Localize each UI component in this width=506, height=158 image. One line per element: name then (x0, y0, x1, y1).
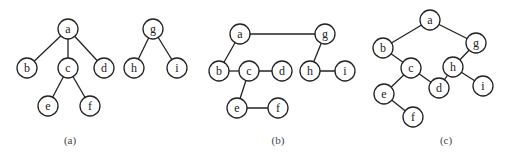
node-label: g (473, 36, 479, 50)
node-c-f: f (403, 107, 423, 127)
node-c-c: c (401, 58, 421, 78)
node-c-g: g (466, 33, 486, 53)
node-b-b: b (209, 61, 229, 81)
node-label: d (436, 81, 442, 95)
node-a-d: d (94, 58, 114, 78)
node-label: b (380, 41, 386, 55)
node-b-c: c (239, 61, 259, 81)
node-c-d: d (429, 78, 449, 98)
node-label: b (24, 61, 30, 75)
node-label: h (131, 61, 137, 75)
node-label: e (234, 101, 239, 115)
node-label: g (150, 22, 156, 36)
node-a-a: a (58, 19, 78, 39)
node-label: f (276, 101, 280, 115)
node-c-b: b (373, 38, 393, 58)
node-label: d (279, 64, 285, 78)
node-a-c: c (58, 58, 78, 78)
panel-caption-b: (b) (272, 134, 285, 147)
node-b-e: e (227, 98, 247, 118)
node-label: h (307, 64, 313, 78)
captions-layer: (a)(b)(c) (64, 134, 453, 147)
node-label: e (381, 87, 386, 101)
node-label: c (246, 64, 251, 78)
node-label: a (427, 13, 433, 27)
panel-caption-a: (a) (64, 134, 77, 147)
node-c-e: e (374, 84, 394, 104)
node-b-i: i (335, 61, 355, 81)
tree-forest-diagram: abcdefghiagbcdhiefabgchdief (a)(b)(c) (0, 0, 506, 158)
node-label: c (408, 61, 413, 75)
node-label: c (65, 61, 70, 75)
node-c-a: a (420, 10, 440, 30)
node-label: b (216, 64, 222, 78)
node-label: f (88, 99, 92, 113)
node-label: a (65, 22, 71, 36)
node-a-e: e (38, 96, 58, 116)
node-a-f: f (80, 96, 100, 116)
node-c-h: h (443, 57, 463, 77)
node-b-g: g (315, 24, 335, 44)
node-label: a (237, 27, 243, 41)
nodes-layer: abcdefghiagbcdhiefabgchdief (17, 10, 493, 127)
node-label: f (411, 110, 415, 124)
node-label: g (322, 27, 328, 41)
node-c-i: i (473, 76, 493, 96)
node-b-d: d (272, 61, 292, 81)
panel-caption-c: (c) (440, 134, 453, 147)
node-b-f: f (268, 98, 288, 118)
node-label: h (450, 60, 456, 74)
node-a-g: g (143, 19, 163, 39)
node-a-i: i (167, 58, 187, 78)
node-label: d (101, 61, 107, 75)
node-label: e (45, 99, 50, 113)
node-a-b: b (17, 58, 37, 78)
node-b-a: a (230, 24, 250, 44)
diagram-svg: abcdefghiagbcdhiefabgchdief (a)(b)(c) (0, 0, 506, 158)
node-a-h: h (124, 58, 144, 78)
node-b-h: h (300, 61, 320, 81)
